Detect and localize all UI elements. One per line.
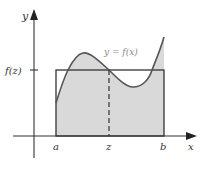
fz-label: f(z) [4, 65, 22, 76]
y-axis-label: y [21, 10, 29, 23]
y-axis-arrow-icon [30, 9, 38, 20]
b-label: b [160, 141, 166, 152]
a-label: a [53, 141, 59, 152]
mean-value-integral-diagram: y x f(z) a z b y = f(x) [0, 0, 208, 169]
x-axis-label: x [188, 141, 194, 152]
x-axis-arrow-icon [186, 132, 197, 140]
curve-label: y = f(x) [103, 47, 138, 57]
z-label: z [105, 141, 112, 152]
